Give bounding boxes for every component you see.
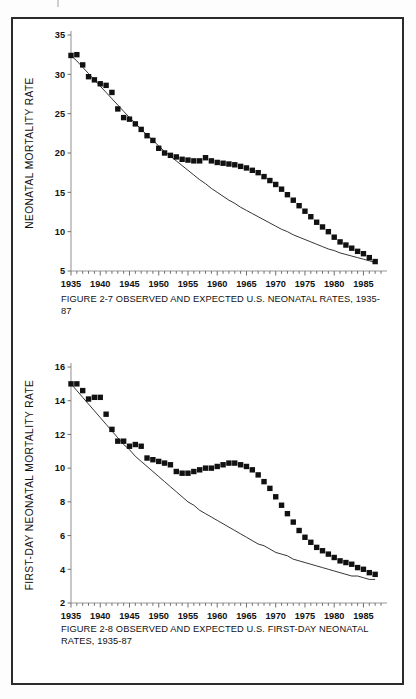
data-point-marker — [308, 540, 313, 545]
data-point-marker — [80, 388, 85, 393]
data-point-marker — [203, 155, 208, 160]
data-point-marker — [74, 381, 79, 386]
data-point-marker — [273, 182, 278, 187]
data-point-marker — [92, 77, 97, 82]
data-point-marker — [98, 395, 103, 400]
y-tick-label: 25 — [55, 109, 65, 119]
data-point-marker — [349, 245, 354, 250]
x-tick-label: 1935 — [61, 279, 81, 289]
y-tick-label: 15 — [55, 188, 65, 198]
data-point-marker — [361, 251, 366, 256]
data-point-marker — [337, 558, 342, 563]
data-point-marker — [168, 462, 173, 467]
data-point-marker — [279, 186, 284, 191]
data-point-marker — [179, 157, 184, 162]
data-point-marker — [191, 469, 196, 474]
data-point-marker — [174, 154, 179, 159]
data-point-marker — [314, 220, 319, 225]
page-border-frame: 5101520253035193519401945195019551960196… — [11, 17, 404, 685]
data-point-marker — [133, 121, 138, 126]
data-point-marker — [138, 127, 143, 132]
data-point-marker — [291, 198, 296, 203]
data-point-marker — [261, 174, 266, 179]
data-point-marker — [308, 214, 313, 219]
x-tick-label: 1980 — [324, 279, 344, 289]
data-point-marker — [209, 465, 214, 470]
data-point-marker — [144, 455, 149, 460]
data-point-marker — [255, 472, 260, 477]
observed-rate-series — [68, 381, 378, 577]
data-point-marker — [296, 203, 301, 208]
data-point-marker — [320, 548, 325, 553]
data-point-marker — [355, 249, 360, 254]
data-point-marker — [285, 192, 290, 197]
data-point-marker — [244, 464, 249, 469]
data-point-marker — [156, 459, 161, 464]
data-point-marker — [109, 427, 114, 432]
data-point-marker — [238, 462, 243, 467]
data-point-marker — [372, 572, 377, 577]
figure-2-8: 2468101214161935194019451950195519601965… — [13, 357, 402, 687]
data-point-marker — [74, 52, 79, 57]
data-point-marker — [267, 486, 272, 491]
x-tick-label: 1965 — [236, 279, 256, 289]
x-tick-label: 1965 — [236, 611, 256, 621]
data-point-marker — [203, 465, 208, 470]
x-tick-label: 1970 — [265, 279, 285, 289]
data-point-marker — [197, 158, 202, 163]
data-point-marker — [209, 158, 214, 163]
data-point-marker — [68, 53, 73, 58]
y-tick-label: 4 — [60, 565, 66, 575]
data-point-marker — [133, 442, 138, 447]
data-point-marker — [320, 224, 325, 229]
data-point-marker — [103, 83, 108, 88]
data-point-marker — [197, 467, 202, 472]
data-point-marker — [343, 560, 348, 565]
data-point-marker — [279, 503, 284, 508]
data-point-marker — [367, 570, 372, 575]
data-point-marker — [232, 460, 237, 465]
x-tick-label: 1940 — [90, 279, 110, 289]
data-point-marker — [250, 467, 255, 472]
x-tick-label: 1960 — [207, 611, 227, 621]
data-point-marker — [349, 562, 354, 567]
data-point-marker — [191, 158, 196, 163]
data-point-marker — [302, 209, 307, 214]
x-tick-label: 1975 — [295, 611, 315, 621]
x-tick-label: 1955 — [178, 611, 198, 621]
data-point-marker — [86, 396, 91, 401]
y-tick-label: 20 — [55, 148, 65, 158]
data-point-marker — [302, 535, 307, 540]
data-point-marker — [273, 494, 278, 499]
observed-rate-series — [68, 52, 378, 264]
y-tick-label: 12 — [55, 430, 65, 440]
data-point-marker — [156, 146, 161, 151]
data-point-marker — [121, 438, 126, 443]
data-point-marker — [343, 242, 348, 247]
x-tick-label: 1945 — [119, 279, 139, 289]
data-point-marker — [337, 239, 342, 244]
data-point-marker — [121, 115, 126, 120]
x-tick-label: 1960 — [207, 279, 227, 289]
x-tick-label: 1985 — [353, 611, 373, 621]
data-point-marker — [226, 460, 231, 465]
data-point-marker — [261, 479, 266, 484]
data-point-marker — [92, 395, 97, 400]
data-point-marker — [326, 229, 331, 234]
data-point-marker — [238, 164, 243, 169]
data-point-marker — [296, 528, 301, 533]
data-point-marker — [267, 178, 272, 183]
data-point-marker — [115, 106, 120, 111]
data-point-marker — [174, 469, 179, 474]
first-day-neonatal-mortality-chart: 2468101214161935194019451950195519601965… — [13, 357, 406, 625]
data-point-marker — [162, 150, 167, 155]
data-point-marker — [138, 444, 143, 449]
data-point-marker — [68, 381, 73, 386]
x-tick-label: 1955 — [178, 279, 198, 289]
figure-2-7: 5101520253035193519401945195019551960196… — [13, 25, 402, 355]
data-point-marker — [285, 511, 290, 516]
data-point-marker — [244, 165, 249, 170]
data-point-marker — [162, 460, 167, 465]
data-point-marker — [98, 81, 103, 86]
scan-artifact-mark — [57, 0, 59, 7]
